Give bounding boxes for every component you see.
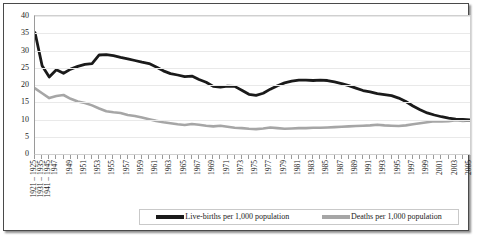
x-axis-tick [169,155,170,159]
x-axis-tick [341,155,342,159]
gridline [35,16,470,17]
black-line-swatch-icon [156,215,184,219]
x-axis-tick [155,155,156,159]
chart-legend: Live-births per 1,000 population Deaths … [139,209,459,225]
x-axis-tick [391,155,392,159]
x-axis-tick [433,155,434,159]
x-axis-tick [98,155,99,159]
x-axis-tick-label: 1969 [208,160,216,175]
x-axis-tick-label: 1979 [280,160,288,175]
x-axis-tick [448,155,449,159]
legend-label-deaths: Deaths per 1,000 population [351,213,442,221]
x-axis-tick [184,155,185,159]
x-axis-tick-label: 1981 [294,160,302,175]
x-axis-tick [70,155,71,159]
x-axis-tick-label: 1955 [108,160,116,175]
x-axis-tick-label: 1985 [322,160,330,175]
x-axis-tick-label: 1971 [223,160,231,175]
gray-line-swatch-icon [322,215,350,219]
x-axis-tick-label: 1953 [94,160,102,175]
x-axis-tick [319,155,320,159]
x-axis-tick [291,155,292,159]
x-axis-tick [41,155,42,159]
x-axis-tick [405,155,406,159]
x-axis-tick-label: 1957 [123,160,131,175]
x-axis-tick-label: 1959 [137,160,145,175]
x-axis-tick [141,155,142,159]
x-axis-tick [369,155,370,159]
x-axis-tick [355,155,356,159]
x-axis-tick [177,155,178,159]
x-axis-tick [362,155,363,159]
x-axis-tick-label: 1965 [180,160,188,175]
x-axis-tick [348,155,349,159]
x-axis-tick [440,155,441,159]
x-axis-tick [326,155,327,159]
x-axis-tick [34,155,35,159]
x-axis-tick-label: 1997 [408,160,416,175]
x-axis-tick-label: 1963 [165,160,173,175]
y-axis-tick-label: 10 [21,116,29,124]
x-axis-tick [212,155,213,159]
x-axis-tick [241,155,242,159]
gridline [35,120,470,121]
x-axis-tick-label: 1991 [365,160,373,175]
x-axis-tick [412,155,413,159]
gridline [35,102,470,103]
x-axis-tick-label: 1975 [251,160,259,175]
x-axis-tick-label: 1999 [422,160,430,175]
x-axis-tick [376,155,377,159]
x-axis-tick-label: 1977 [265,160,273,175]
x-axis-tick-label: 2001 [436,160,444,175]
x-axis-tick [419,155,420,159]
x-axis: 1921 – 19251931 – 19351941 – 19451947194… [34,155,471,207]
x-axis-tick [120,155,121,159]
x-axis-tick [148,155,149,159]
series-line-live-births [35,33,470,120]
x-axis-tick [162,155,163,159]
x-axis-tick [191,155,192,159]
x-axis-tick [219,155,220,159]
x-axis-tick-label: 1989 [351,160,359,175]
x-axis-tick [298,155,299,159]
x-axis-tick-label: 1995 [394,160,402,175]
x-axis-tick-label: 1973 [237,160,245,175]
x-axis-tick [63,155,64,159]
x-axis-tick [248,155,249,159]
x-axis-tick [48,155,49,159]
x-axis-tick-label: 2005 [465,160,473,175]
legend-label-live-births: Live-births per 1,000 population [185,213,289,221]
x-axis-tick [284,155,285,159]
y-axis: 0510152025303540 [6,15,32,155]
x-axis-tick-label: 1951 [80,160,88,175]
x-axis-tick [269,155,270,159]
x-axis-tick [455,155,456,159]
x-axis-tick [112,155,113,159]
x-axis-tick [383,155,384,159]
x-axis-tick [134,155,135,159]
gridline [35,51,470,52]
x-axis-tick [262,155,263,159]
x-axis-tick-label: 1967 [194,160,202,175]
x-axis-tick [84,155,85,159]
plot-area [34,15,471,155]
y-axis-tick-label: 40 [21,12,29,20]
gridline [35,85,470,86]
legend-item-deaths: Deaths per 1,000 population [322,213,442,221]
y-axis-tick-label: 5 [25,133,29,141]
x-axis-tick-label: 1983 [308,160,316,175]
gridline [35,33,470,34]
x-axis-tick [91,155,92,159]
x-axis-tick-label: 1947 [51,160,59,175]
x-axis-tick [469,155,470,159]
x-axis-tick-label: 1961 [151,160,159,175]
x-axis-tick [234,155,235,159]
y-axis-tick-label: 0 [25,150,29,158]
x-axis-tick [398,155,399,159]
x-axis-tick-label: 1987 [337,160,345,175]
gridline [35,68,470,69]
x-axis-tick-label: 1949 [66,160,74,175]
y-axis-tick-label: 20 [21,81,29,89]
x-axis-tick [276,155,277,159]
x-axis-tick [198,155,199,159]
